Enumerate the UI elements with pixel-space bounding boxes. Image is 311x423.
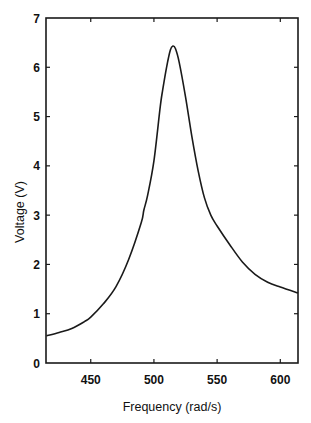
chart-canvas: 450500550600 01234567 Frequency (rad/s) … bbox=[0, 0, 311, 423]
x-tick-label: 500 bbox=[144, 373, 164, 387]
y-axis-ticks: 01234567 bbox=[33, 12, 298, 371]
y-tick-label: 2 bbox=[33, 258, 40, 272]
plot-frame bbox=[46, 18, 298, 363]
y-tick-label: 0 bbox=[33, 357, 40, 371]
x-tick-label: 450 bbox=[81, 373, 101, 387]
series-layer bbox=[47, 46, 298, 336]
y-axis-title: Voltage (V) bbox=[13, 181, 27, 243]
y-tick-label: 4 bbox=[33, 159, 40, 173]
x-axis-title: Frequency (rad/s) bbox=[123, 400, 222, 414]
y-tick-label: 5 bbox=[33, 110, 40, 124]
y-tick-label: 1 bbox=[33, 307, 40, 321]
x-axis-ticks: 450500550600 bbox=[81, 18, 291, 387]
plot-border bbox=[46, 18, 298, 363]
y-tick-label: 3 bbox=[33, 209, 40, 223]
x-tick-label: 550 bbox=[207, 373, 227, 387]
x-tick-label: 600 bbox=[270, 373, 290, 387]
resonance-chart: 450500550600 01234567 Frequency (rad/s) … bbox=[0, 0, 311, 423]
y-tick-label: 6 bbox=[33, 61, 40, 75]
y-tick-label: 7 bbox=[33, 12, 40, 26]
resonance-curve bbox=[47, 46, 298, 336]
